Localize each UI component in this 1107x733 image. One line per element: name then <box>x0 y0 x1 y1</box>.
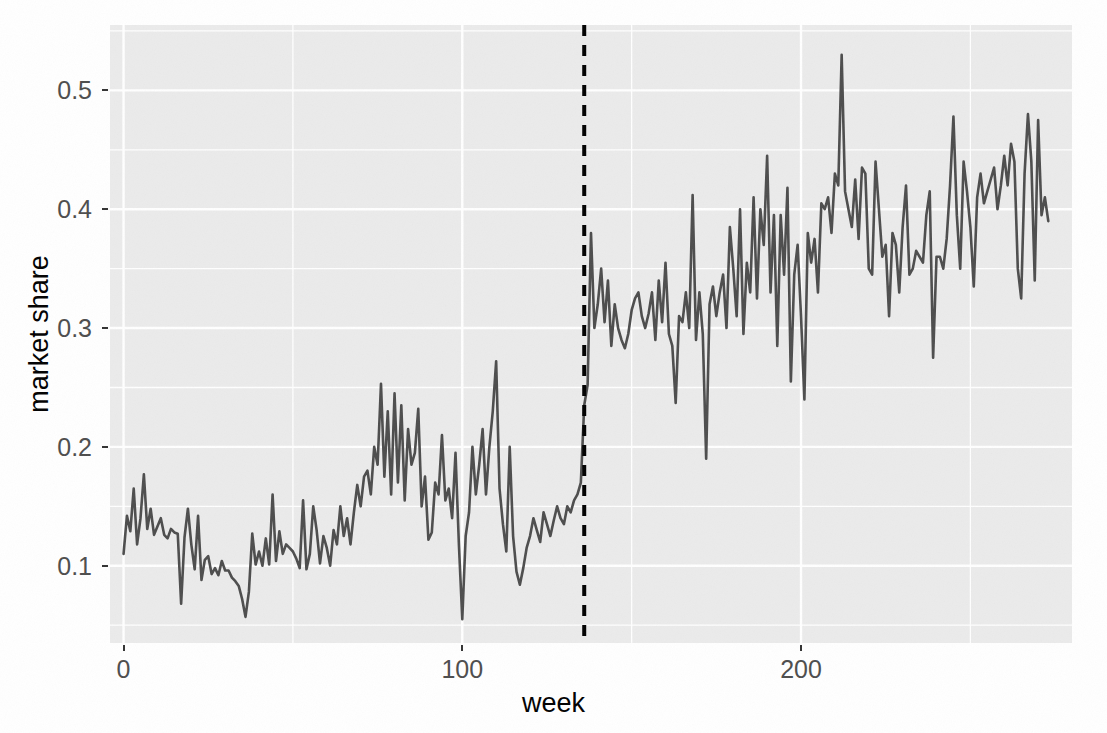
x-tick-mark <box>123 645 125 651</box>
plot-panel <box>110 25 1072 643</box>
x-tick-label: 100 <box>441 657 483 682</box>
y-tick-mark <box>102 208 108 210</box>
y-tick-mark <box>102 446 108 448</box>
y-tick-mark <box>102 327 108 329</box>
chart-figure: 0.10.20.30.40.5 0100200 week market shar… <box>0 0 1107 733</box>
x-tick-label: 0 <box>117 657 131 682</box>
y-tick-mark <box>102 89 108 91</box>
x-tick-mark <box>461 645 463 651</box>
x-axis-title: week <box>0 688 1107 719</box>
plot-svg <box>110 25 1072 643</box>
x-tick-label: 200 <box>780 657 822 682</box>
y-axis-title: market share <box>16 25 62 643</box>
x-tick-mark <box>800 645 802 651</box>
y-tick-mark <box>102 565 108 567</box>
